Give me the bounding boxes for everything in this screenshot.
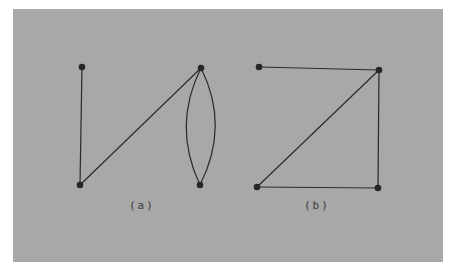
node-a1 — [79, 64, 86, 71]
node-b2 — [376, 67, 383, 74]
node-a2 — [77, 182, 84, 189]
node-a4 — [197, 182, 204, 189]
edge-a3-a4-left-arc — [186, 68, 201, 185]
edge-b2-b4 — [378, 70, 379, 188]
edge-a3-a4-right-arc — [200, 68, 215, 185]
edge-b1-b2 — [259, 67, 379, 70]
edge-b3-b4 — [257, 187, 378, 188]
edge-a2-a3 — [80, 68, 201, 185]
node-b3 — [254, 184, 261, 191]
node-a3 — [198, 65, 205, 72]
edge-a1-a2 — [80, 67, 82, 185]
node-b4 — [375, 185, 382, 192]
edge-b2-b3 — [257, 70, 379, 187]
graph-a — [77, 64, 216, 189]
graph-b — [254, 64, 383, 192]
node-b1 — [256, 64, 263, 71]
graph-figure — [0, 0, 458, 278]
caption-a: (a) — [129, 199, 155, 212]
caption-b: (b) — [304, 199, 330, 212]
